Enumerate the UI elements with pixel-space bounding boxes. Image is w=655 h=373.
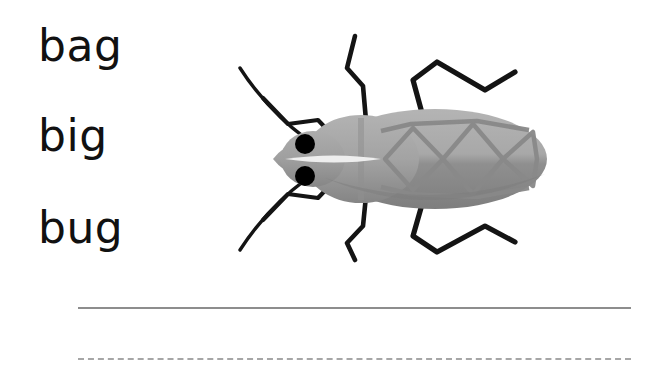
word-choice-bug[interactable]: bug (38, 206, 123, 250)
writing-line-dashed[interactable] (78, 358, 631, 360)
worksheet-page: bag big bug (0, 0, 655, 373)
bug-eye-lower (295, 166, 315, 186)
writing-line-solid[interactable] (78, 307, 631, 309)
word-choice-bag[interactable]: bag (38, 24, 122, 68)
bug-eye-upper (295, 134, 315, 154)
bug-icon (185, 28, 555, 263)
word-choice-list: bag big bug (0, 0, 170, 280)
handwriting-practice-area (0, 280, 655, 373)
bug-illustration (185, 28, 555, 263)
word-choice-big[interactable]: big (38, 114, 108, 158)
